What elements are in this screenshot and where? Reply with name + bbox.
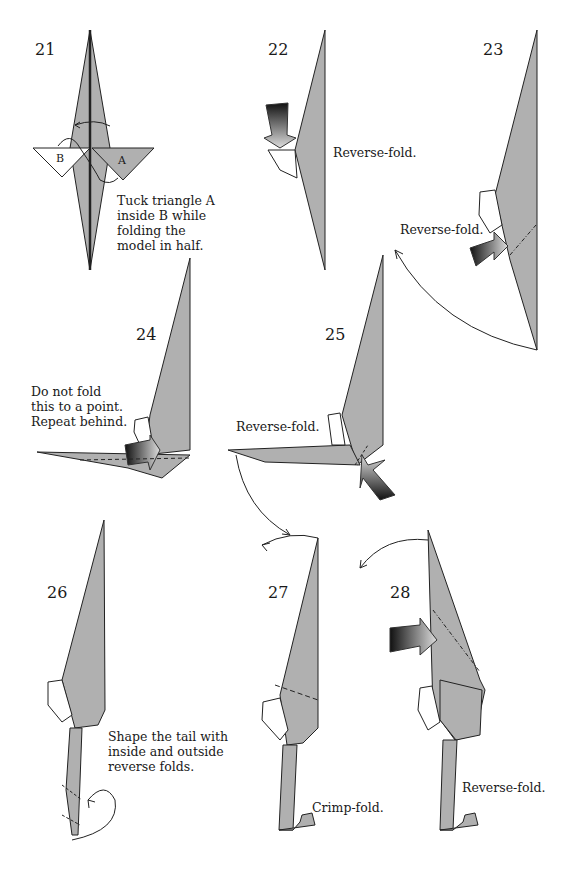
- step-27-diagram: [262, 535, 318, 830]
- step-26-caption: Shape the tail with inside and outside r…: [108, 729, 228, 774]
- step-22-number: 22: [268, 40, 288, 59]
- triangle-a-label: A: [118, 154, 126, 167]
- step-22-diagram: [264, 30, 325, 270]
- step-27-number: 27: [268, 583, 288, 602]
- step-25-number: 25: [325, 325, 345, 344]
- step-21-number: 21: [35, 40, 55, 59]
- step-23-caption: Reverse-fold.: [400, 222, 483, 237]
- step-22-caption: Reverse-fold.: [333, 145, 416, 160]
- step-27-caption: Crimp-fold.: [312, 800, 384, 815]
- step-23-number: 23: [483, 40, 503, 59]
- step-28-caption: Reverse-fold.: [462, 780, 545, 795]
- step-26-diagram: [48, 520, 115, 840]
- step-25-caption: Reverse-fold.: [236, 419, 319, 434]
- step-24-number: 24: [136, 325, 156, 344]
- triangle-b-label: B: [56, 152, 64, 165]
- step-23-diagram: [395, 30, 537, 350]
- origami-diagrams: [0, 0, 570, 872]
- step-24-diagram: [37, 258, 190, 478]
- step-26-number: 26: [47, 583, 67, 602]
- step-25-diagram: [228, 255, 395, 535]
- step-21-caption: Tuck triangle A inside B while folding t…: [117, 193, 215, 253]
- step-24-caption: Do not fold this to a point. Repeat behi…: [31, 384, 127, 429]
- step-28-number: 28: [390, 583, 410, 602]
